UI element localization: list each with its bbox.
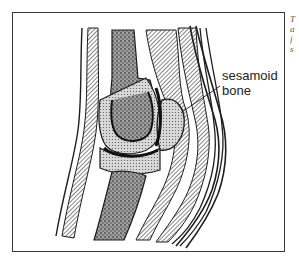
caption-fragment: a — [290, 24, 299, 34]
caption-fragment: s — [290, 44, 299, 54]
label-line-2: bone — [222, 83, 278, 98]
label-line-1: sesamoid — [222, 68, 278, 83]
cropped-caption: T a j s — [290, 14, 299, 54]
sesamoid-bone-label: sesamoid bone — [222, 68, 278, 98]
lower-bone — [94, 171, 146, 240]
left-tissue-band — [62, 28, 99, 238]
joint-illustration — [0, 0, 299, 264]
caption-fragment: j — [290, 34, 299, 44]
caption-fragment: T — [290, 14, 299, 24]
